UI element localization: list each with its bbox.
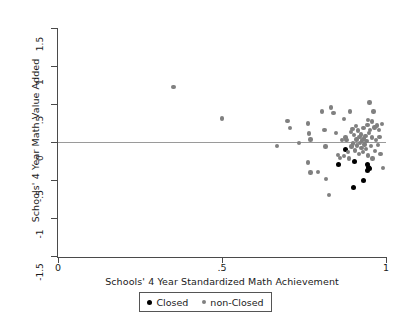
y-axis-tick	[51, 104, 57, 105]
y-axis-line	[57, 28, 58, 257]
data-point-non-closed	[381, 166, 385, 170]
data-point-non-closed	[370, 156, 374, 160]
legend-entry-non-closed: non-Closed	[202, 297, 263, 308]
data-point-closed	[361, 178, 366, 183]
data-point-non-closed	[331, 111, 335, 115]
data-point-non-closed	[306, 160, 310, 164]
data-point-non-closed	[320, 109, 324, 113]
x-axis-tick-label: .5	[207, 262, 237, 273]
data-point-non-closed	[376, 143, 380, 147]
x-axis-title: Schools' 4 Year Standardized Math Achiev…	[57, 276, 387, 287]
data-point-non-closed	[342, 117, 346, 121]
data-point-non-closed	[353, 148, 357, 152]
legend-entry-closed: Closed	[147, 297, 188, 308]
x-axis-tick-label: 0	[43, 262, 73, 273]
data-point-closed	[352, 159, 357, 164]
data-point-non-closed	[378, 152, 382, 156]
data-point-non-closed	[347, 156, 351, 160]
legend-marker-closed-icon	[147, 300, 152, 305]
data-point-non-closed	[363, 134, 367, 138]
legend-label-non-closed: non-Closed	[210, 297, 263, 308]
data-point-non-closed	[322, 128, 326, 132]
data-point-non-closed	[348, 109, 352, 113]
data-point-non-closed	[346, 150, 350, 154]
legend-marker-non-closed-icon	[202, 300, 206, 304]
y-axis-tick	[51, 66, 57, 67]
data-point-non-closed	[370, 119, 374, 123]
data-point-non-closed	[285, 119, 289, 123]
data-point-non-closed	[334, 131, 338, 135]
data-point-non-closed	[308, 137, 312, 141]
y-axis-tick	[51, 256, 57, 257]
data-point-non-closed	[323, 144, 327, 148]
data-point-closed	[365, 168, 370, 173]
data-point-non-closed	[371, 109, 375, 113]
data-point-non-closed	[377, 135, 381, 139]
data-point-non-closed	[373, 149, 377, 153]
data-point-non-closed	[308, 170, 312, 174]
x-axis-tick-label: 1	[371, 262, 401, 273]
plot-area	[58, 28, 386, 256]
data-point-non-closed	[364, 147, 368, 151]
y-axis-tick	[51, 28, 57, 29]
y-axis-title: Schools' 4 Year Math Value Added	[30, 46, 41, 236]
data-point-non-closed	[380, 122, 384, 126]
y-axis-tick	[51, 142, 57, 143]
zero-reference-line	[58, 142, 386, 143]
data-point-closed	[336, 162, 341, 167]
scatter-plot-figure: 1.51.50-.5-1-1.5 0.51 Schools' 4 Year Ma…	[0, 0, 409, 334]
data-point-non-closed	[297, 141, 301, 145]
data-point-non-closed	[275, 144, 279, 148]
legend-box: Closed non-Closed	[139, 292, 272, 312]
data-point-non-closed	[327, 193, 331, 197]
data-point-non-closed	[367, 100, 371, 104]
data-point-non-closed	[324, 177, 328, 181]
data-point-closed	[351, 185, 356, 190]
data-point-non-closed	[171, 85, 175, 89]
data-point-non-closed	[344, 138, 348, 142]
data-point-non-closed	[288, 126, 292, 130]
data-point-non-closed	[220, 116, 224, 120]
data-point-non-closed	[342, 154, 346, 158]
data-point-non-closed	[329, 105, 333, 109]
data-point-non-closed	[316, 170, 320, 174]
data-point-non-closed	[365, 123, 369, 127]
data-point-non-closed	[377, 128, 381, 132]
y-axis-tick	[51, 218, 57, 219]
data-point-non-closed	[307, 131, 311, 135]
legend-label-closed: Closed	[156, 297, 188, 308]
y-axis-tick	[51, 180, 57, 181]
data-point-non-closed	[369, 144, 373, 148]
data-point-non-closed	[306, 121, 310, 125]
